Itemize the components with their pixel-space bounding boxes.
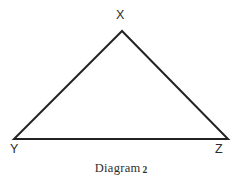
vertex-label-x: X: [116, 9, 125, 22]
diagram-figure: X Y Z Diagram2: [0, 0, 242, 187]
triangle-shape: [0, 0, 242, 187]
caption-label: Diagram: [95, 161, 141, 175]
vertex-label-z: Z: [215, 143, 223, 156]
diagram-caption: Diagram2: [0, 162, 242, 176]
caption-number: 2: [141, 165, 148, 175]
vertex-label-y: Y: [10, 143, 19, 156]
triangle-outline: [14, 31, 228, 139]
